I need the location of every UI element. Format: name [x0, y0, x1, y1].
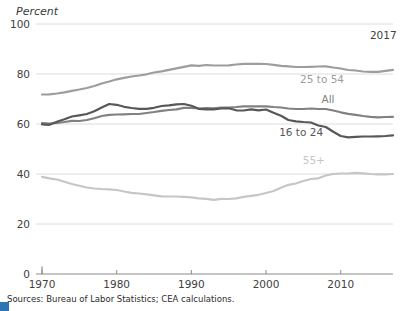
corner-logo-fragment: [0, 302, 9, 311]
x-axis-tick-label: 2010: [327, 278, 354, 290]
y-axis-tick-label: 40: [17, 168, 30, 180]
y-axis-tick-label: 60: [17, 118, 30, 130]
x-axis-tick-label: 1990: [178, 278, 205, 290]
series-label-25-to-54: 25 to 54: [300, 73, 344, 85]
series-line-16-to-24: [42, 104, 393, 137]
series-label-55: 55+: [303, 154, 325, 166]
x-axis-tick-label: 1980: [103, 278, 130, 290]
x-axis-tick-label: 1970: [29, 278, 56, 290]
series-line-55: [42, 173, 393, 200]
chart-figure: Percent 02040608010019701980199020002010…: [0, 0, 409, 311]
y-axis-tick-label: 100: [10, 18, 30, 30]
chart-canvas: 0204060801001970198019902000201055+25 to…: [0, 0, 409, 311]
x-axis-tick-label: 2000: [253, 278, 280, 290]
series-label-all: All: [322, 93, 335, 105]
y-axis-tick-label: 80: [17, 68, 30, 80]
annotation-endpoint-year: 2017: [370, 29, 397, 41]
y-axis-tick-label: 20: [17, 218, 30, 230]
series-label-16-to-24: 16 to 24: [279, 126, 323, 138]
sources-note: Sources: Bureau of Labor Statistics; CEA…: [7, 294, 234, 304]
